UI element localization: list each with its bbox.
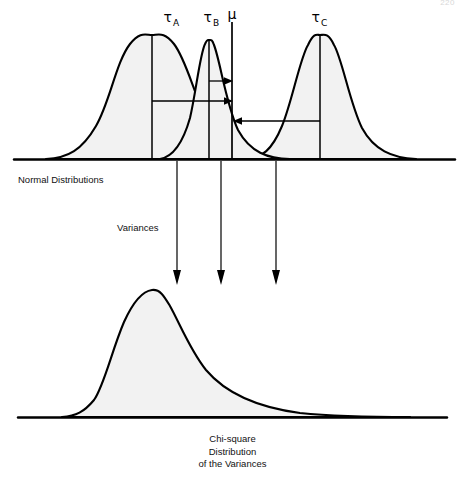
caption-line-1: Chi-square xyxy=(0,433,465,446)
chi-square-curve xyxy=(62,290,410,417)
chi-square-caption: Chi-square Distribution of the Variances xyxy=(0,433,465,471)
label-tau-c-subscript: C xyxy=(321,18,327,28)
label-mu-symbol: μ xyxy=(228,6,237,22)
variance-arrow-b-head xyxy=(217,270,225,285)
label-tau-b-symbol: τ xyxy=(204,9,212,25)
label-normal-distributions: Normal Distributions xyxy=(18,174,104,185)
page-number: 220 xyxy=(440,0,455,7)
diagram-canvas: τ A τ B τ C μ Normal Distributions Varia… xyxy=(0,0,465,481)
statistics-figure: 220 xyxy=(0,0,465,481)
label-tau-b-subscript: B xyxy=(213,18,219,28)
variance-arrow-a-head xyxy=(173,270,181,285)
variance-arrow-c-head xyxy=(272,270,280,285)
label-tau-a-subscript: A xyxy=(173,18,180,28)
variance-transfer-arrows xyxy=(173,161,280,285)
normal-curve-tau-c xyxy=(246,35,416,159)
caption-line-2: Distribution xyxy=(0,446,465,459)
label-variances: Variances xyxy=(117,222,159,233)
label-tau-c-symbol: τ xyxy=(312,9,320,25)
label-tau-a-symbol: τ xyxy=(164,9,172,25)
chi-square-distribution-group xyxy=(18,290,447,418)
caption-line-3: of the Variances xyxy=(0,458,465,471)
normal-distributions-group: τ A τ B τ C μ Normal Distributions Varia… xyxy=(14,6,455,233)
